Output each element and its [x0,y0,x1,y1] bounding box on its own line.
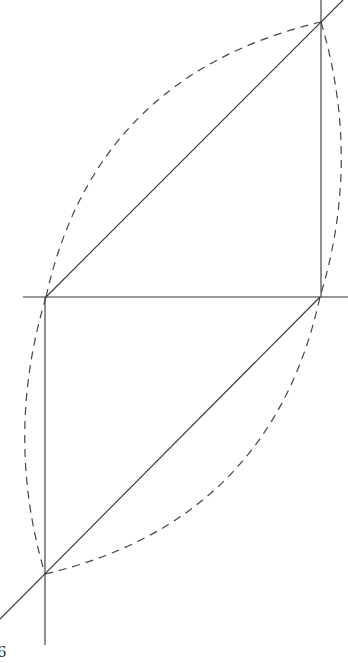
left-dashed-arc [25,297,46,574]
page-label: 6 [0,643,7,661]
right-dashed-arc [320,22,341,297]
lower-diagonal-line [0,297,320,619]
upper-diagonal-line [46,0,343,297]
diagram-canvas [0,0,348,663]
